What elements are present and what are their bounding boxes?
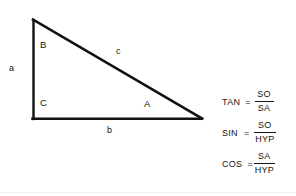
formula-row-cos: COS = SA HYP xyxy=(222,148,296,179)
fraction-bar-tan xyxy=(255,101,274,102)
fraction-sin: SO HYP xyxy=(254,121,275,144)
trigonometry-figure: a b c B C A TAN = SO SA SIN = SO HYP CO xyxy=(0,0,296,196)
side-label-b: b xyxy=(107,126,112,135)
formula-row-sin: SIN = SO HYP xyxy=(222,117,296,148)
fraction-numerator-sin: SO xyxy=(257,121,273,130)
angle-label-a: A xyxy=(144,99,150,108)
fraction-bar-cos xyxy=(254,163,275,164)
fraction-denominator-tan: SA xyxy=(257,104,272,113)
fraction-cos: SA HYP xyxy=(254,152,275,175)
fraction-numerator-tan: SO xyxy=(256,90,272,99)
trig-ratio-formula-list: TAN = SO SA SIN = SO HYP COS = SA HYP xyxy=(222,86,296,179)
scan-artifact-line xyxy=(0,192,296,193)
fraction-numerator-cos: SA xyxy=(257,152,272,161)
angle-label-c: C xyxy=(40,98,47,107)
equals-sign-tan: = xyxy=(245,97,250,107)
fraction-denominator-cos: HYP xyxy=(254,166,275,175)
fraction-denominator-sin: HYP xyxy=(254,135,275,144)
equals-sign-sin: = xyxy=(244,128,249,138)
formula-name-cos: COS xyxy=(222,159,242,169)
fraction-bar-sin xyxy=(254,132,275,133)
fraction-tan: SO SA xyxy=(255,90,274,113)
angle-label-b: B xyxy=(40,40,46,49)
triangle-side-c-line xyxy=(33,20,202,119)
formula-name-tan: TAN xyxy=(222,97,240,107)
side-label-a: a xyxy=(9,64,14,73)
formula-name-sin: SIN xyxy=(222,128,238,138)
formula-row-tan: TAN = SO SA xyxy=(222,86,296,117)
equals-sign-cos: = xyxy=(247,159,252,169)
side-label-c: c xyxy=(116,47,121,56)
